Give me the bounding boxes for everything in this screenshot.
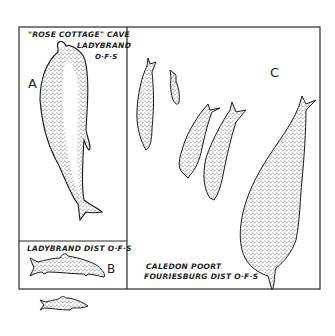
panel-a-caption-line1: "ROSE COTTAGE" CAVE xyxy=(28,30,130,39)
panel-b-caption: LADYBRAND DIST O·F·S xyxy=(27,244,132,253)
panel-a-caption-line2: LADYBRAND xyxy=(77,41,131,50)
panel-a-figure xyxy=(40,42,102,220)
panel-letter-a: A xyxy=(28,76,37,91)
panel-c-caption-line1: CALEDON POORT xyxy=(146,262,221,271)
panel-letter-b: B xyxy=(107,262,115,276)
panel-a-caption-line3: O·F·S xyxy=(95,53,118,61)
rock-art-figure xyxy=(0,0,335,336)
panel-letter-c: C xyxy=(270,65,279,80)
panel-c-caption-line2: FOURIESBURG DIST O·F·S xyxy=(144,272,258,281)
panel-c-figures xyxy=(137,58,316,290)
panel-b-figures xyxy=(30,254,105,310)
